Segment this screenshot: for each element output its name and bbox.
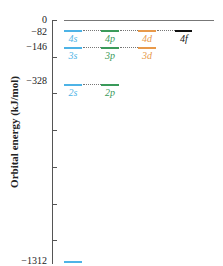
- label-minus-1312: −1312: [21, 256, 47, 266]
- connector: [83, 30, 101, 31]
- level-3p: [101, 47, 119, 49]
- level-2s: [64, 84, 82, 86]
- label-2s: 2s: [64, 88, 82, 98]
- label-4s: 4s: [64, 34, 82, 44]
- label-minus-146: −146: [26, 42, 47, 52]
- label-3p: 3p: [101, 51, 119, 61]
- label-4f: 4f: [175, 34, 193, 44]
- level-4s: [64, 30, 82, 32]
- tick-minus-400: [52, 93, 57, 94]
- tick-minus-200: [52, 57, 57, 58]
- tick-minus-800: [52, 167, 57, 168]
- tick-0: [52, 20, 57, 21]
- zero-energy-line: [64, 20, 214, 21]
- label-4p: 4p: [101, 34, 119, 44]
- level-2p: [101, 84, 119, 86]
- label-minus-82: −82: [31, 27, 47, 37]
- connector: [120, 30, 138, 31]
- level-4d: [138, 30, 156, 32]
- level-4p: [101, 30, 119, 32]
- label-0: 0: [42, 15, 47, 25]
- level-3s: [64, 47, 82, 49]
- label-3s: 3s: [64, 51, 82, 61]
- connector: [120, 47, 138, 48]
- tick-minus-600: [52, 130, 57, 131]
- level-4f: [175, 30, 192, 32]
- connector: [83, 47, 101, 48]
- connector: [157, 30, 175, 31]
- tick-minus-1000: [52, 204, 57, 205]
- label-3d: 3d: [138, 51, 156, 61]
- level-3d: [138, 47, 156, 49]
- level-1s: [64, 261, 82, 263]
- label-minus-328: −328: [26, 76, 47, 86]
- label-2p: 2p: [101, 88, 119, 98]
- y-axis-label: Orbital energy (kJ/mol): [8, 62, 20, 202]
- label-4d: 4d: [138, 34, 156, 44]
- tick-minus-1200: [52, 240, 57, 241]
- connector: [83, 84, 101, 85]
